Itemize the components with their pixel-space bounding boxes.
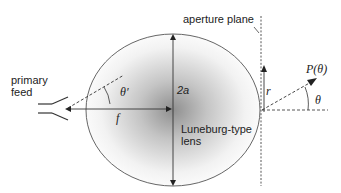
pattern-label: P(θ) [306,63,327,75]
lens-label-line1: Luneburg-type [181,123,252,135]
lens-label-line2: lens [181,135,201,147]
aperture-plane-leader [254,27,259,33]
theta-label: θ [315,94,321,106]
focal-length-label: f [116,112,119,124]
radius-label: r [266,85,271,97]
theta-arc [305,87,308,110]
theta-prime-label: θ′ [120,86,129,98]
primary-feed-horn-icon [38,97,68,120]
luneburg-lens-diagram [0,0,341,193]
primary-feed-label-line2: feed [11,86,32,98]
primary-feed-label-line1: primary [11,74,48,86]
diameter-label: 2a [177,84,189,96]
aperture-plane-label: aperture plane [183,13,254,25]
